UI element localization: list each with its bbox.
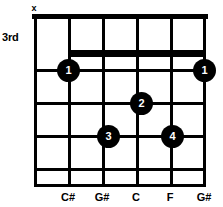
- string-marker-mute-string1: x: [28, 4, 40, 13]
- finger-dot-string3-fret3: 3: [97, 125, 120, 148]
- nut-line: [32, 14, 208, 19]
- fretboard-grid: [34, 16, 206, 186]
- finger-dot-string5-fret3: 4: [161, 125, 184, 148]
- finger-dot-string6-fret1: 1: [193, 59, 216, 82]
- barre-bar: [68, 50, 204, 57]
- note-label-string3: G#: [87, 191, 117, 203]
- fret-line-2: [34, 102, 206, 105]
- chord-diagram: 3rd x 1 1 2 3 4 C# G# C F G#: [0, 0, 223, 207]
- string-line-2: [68, 16, 71, 186]
- string-line-1: [34, 16, 37, 186]
- fret-line-4: [34, 168, 206, 171]
- finger-dot-string2-fret1: 1: [57, 59, 80, 82]
- string-line-3: [102, 16, 105, 186]
- note-label-string2: C#: [53, 191, 83, 203]
- fret-position-label: 3rd: [2, 31, 19, 43]
- fret-line-5: [34, 184, 206, 187]
- finger-dot-string4-fret2: 2: [130, 92, 153, 115]
- note-label-string5: F: [155, 191, 185, 203]
- string-line-6: [203, 16, 206, 186]
- string-line-5: [170, 16, 173, 186]
- note-label-string4: C: [121, 191, 151, 203]
- note-label-string6: G#: [189, 191, 219, 203]
